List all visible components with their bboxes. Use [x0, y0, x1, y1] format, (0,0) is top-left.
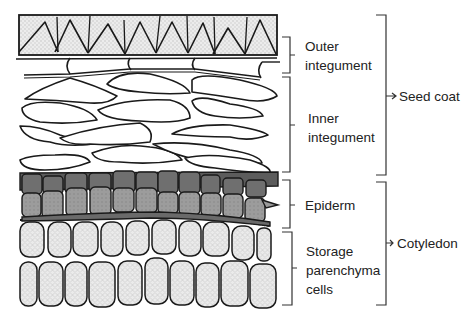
epiderm-text: Epiderm: [305, 196, 355, 215]
outer-integument-bracket: [282, 37, 295, 73]
storage-parenchyma-label: Storage parenchyma cells: [306, 242, 380, 299]
outer-integument-line1: Outer: [305, 37, 372, 56]
cotyledon-text: Cotyledon: [397, 236, 458, 251]
cotyledon-label: Cotyledon: [397, 234, 458, 253]
inner-integument-line1: Inner: [308, 109, 375, 128]
seed-coat-arrow-icon: [386, 93, 396, 99]
storage-line3: cells: [306, 280, 380, 299]
seed-coat-label: Seed coat: [399, 87, 460, 106]
inner-integument-bracket: [282, 77, 295, 172]
storage-line2: parenchyma: [306, 261, 380, 280]
inner-integument-label: Inner integument: [308, 109, 375, 147]
cotyledon-arrow-icon: [386, 240, 393, 246]
seed-coat-text: Seed coat: [399, 89, 460, 104]
layer-brackets: [282, 37, 297, 305]
outer-integument-label: Outer integument: [305, 37, 372, 75]
seed-section-diagram: [0, 0, 464, 322]
storage-parenchyma-cells: [20, 220, 276, 308]
outer-integument-line2: integument: [305, 56, 372, 75]
epiderm-label: Epiderm: [305, 196, 355, 215]
storage-line1: Storage: [306, 242, 380, 261]
inner-integument-line2: integument: [308, 128, 375, 147]
inner-integument-cells: [20, 73, 277, 173]
seed-coat-bracket: [376, 15, 386, 175]
storage-bracket: [282, 232, 297, 305]
epiderm-bracket: [282, 180, 295, 228]
palisade-layer: [16, 15, 277, 59]
